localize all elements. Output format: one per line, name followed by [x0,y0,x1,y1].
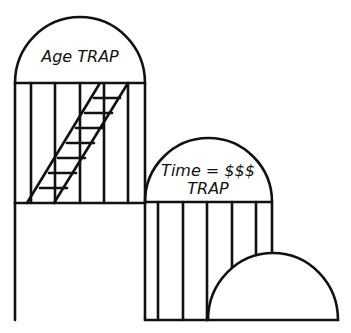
age-trap-label: Age TRAP [40,47,119,66]
time-trap-label-line2: TRAP [187,179,229,198]
ladder-icon [27,83,128,203]
age-trap-tower: Age TRAP [15,17,145,320]
dome [208,253,338,320]
time-trap-label-line1: Time = $$$ [161,161,255,180]
trap-diagram: Age TRAP Time = $$$ [0,0,351,333]
